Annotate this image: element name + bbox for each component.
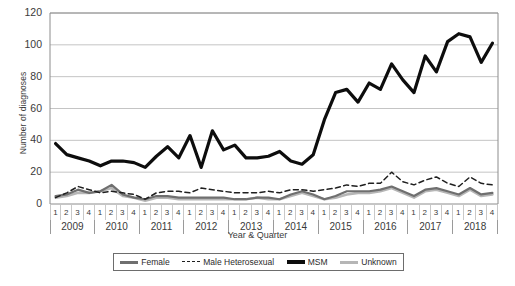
x-tick-quarter: 2 <box>240 205 251 220</box>
x-tick-quarter: 4 <box>308 205 319 220</box>
x-tick-quarter: 2 <box>420 205 431 220</box>
x-tick-quarter: 3 <box>252 205 263 220</box>
x-tick-quarter: 1 <box>364 205 375 220</box>
legend-swatch-male-heterosexual-icon <box>182 259 200 265</box>
plot-area <box>0 0 515 286</box>
x-tick-quarter: 1 <box>140 205 151 220</box>
legend-swatch-msm-icon <box>287 259 305 265</box>
legend-swatch-female-icon <box>120 259 138 265</box>
x-tick-quarter: 4 <box>352 205 363 220</box>
x-tick-quarter: 4 <box>84 205 95 220</box>
legend-label-male-heterosexual: Male Heterosexual <box>203 257 274 267</box>
diagnoses-line-chart: Number of diagnoses 020406080100120 1234… <box>0 0 515 286</box>
x-tick-quarter: 4 <box>218 205 229 220</box>
x-tick-quarter: 3 <box>207 205 218 220</box>
legend-label-female: Female <box>141 257 169 267</box>
x-tick-quarter: 2 <box>330 205 341 220</box>
x-tick-quarter: 2 <box>106 205 117 220</box>
legend-label-unknown: Unknown <box>361 257 396 267</box>
x-tick-quarter: 1 <box>229 205 240 220</box>
x-tick-quarter: 3 <box>72 205 83 220</box>
x-tick-quarter: 3 <box>296 205 307 220</box>
x-tick-quarter: 1 <box>50 205 61 220</box>
x-tick-quarter: 4 <box>442 205 453 220</box>
x-tick-quarter: 2 <box>464 205 475 220</box>
x-tick-quarter: 1 <box>184 205 195 220</box>
x-tick-quarter: 4 <box>487 205 498 220</box>
x-tick-quarter: 4 <box>173 205 184 220</box>
legend-item-male-heterosexual: Male Heterosexual <box>182 257 274 267</box>
x-tick-quarter: 3 <box>162 205 173 220</box>
series-line-msm <box>56 34 493 168</box>
legend-item-female: Female <box>120 257 169 267</box>
legend-swatch-unknown-icon <box>340 259 358 265</box>
x-tick-quarter: 2 <box>285 205 296 220</box>
legend-item-unknown: Unknown <box>340 257 396 267</box>
x-tick-quarter: 4 <box>397 205 408 220</box>
x-tick-quarter: 1 <box>453 205 464 220</box>
legend-label-msm: MSM <box>308 257 328 267</box>
x-tick-quarter: 2 <box>375 205 386 220</box>
x-axis-title: Year & Quarter <box>0 230 515 240</box>
x-tick-quarter: 3 <box>431 205 442 220</box>
legend-item-msm: MSM <box>287 257 328 267</box>
x-tick-quarter: 3 <box>117 205 128 220</box>
x-tick-quarter: 2 <box>61 205 72 220</box>
x-tick-quarter: 1 <box>95 205 106 220</box>
x-tick-quarter: 3 <box>341 205 352 220</box>
chart-legend: Female Male Heterosexual MSM Unknown <box>113 253 404 271</box>
x-tick-quarter: 4 <box>128 205 139 220</box>
x-tick-quarter: 3 <box>476 205 487 220</box>
x-tick-quarter: 1 <box>274 205 285 220</box>
x-tick-quarter: 2 <box>151 205 162 220</box>
x-tick-quarter: 1 <box>408 205 419 220</box>
x-tick-quarter: 4 <box>263 205 274 220</box>
x-tick-quarter: 1 <box>319 205 330 220</box>
x-tick-quarter: 2 <box>196 205 207 220</box>
x-tick-quarter: 3 <box>386 205 397 220</box>
